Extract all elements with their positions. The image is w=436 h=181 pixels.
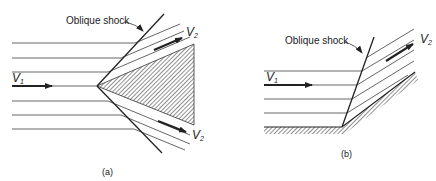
v2-label-b: V2 — [420, 32, 432, 46]
upstream-streamlines-b — [264, 71, 362, 113]
panel-a: Oblique shock V1 V2 V2 (a) — [12, 14, 204, 177]
v2-upper-arrow-icon — [154, 38, 182, 50]
v2-lower-label: V2 — [192, 128, 204, 142]
oblique-shock-figure: Oblique shock V1 V2 V2 (a) — [0, 0, 436, 181]
wall-hatch — [264, 72, 418, 134]
v1-label-a: V1 — [12, 71, 24, 85]
shock-label-b: Oblique shock — [285, 35, 349, 46]
panel-b: Oblique shock V1 V2 (b) — [264, 29, 432, 159]
shock-label-a: Oblique shock — [66, 15, 130, 26]
wall-surface — [264, 72, 415, 127]
v2-lower-arrow-icon — [158, 121, 186, 132]
v1-label-b: V1 — [266, 70, 278, 84]
v2-upper-label: V2 — [186, 25, 198, 39]
caption-b: (b) — [341, 149, 352, 159]
caption-a: (a) — [102, 167, 113, 177]
